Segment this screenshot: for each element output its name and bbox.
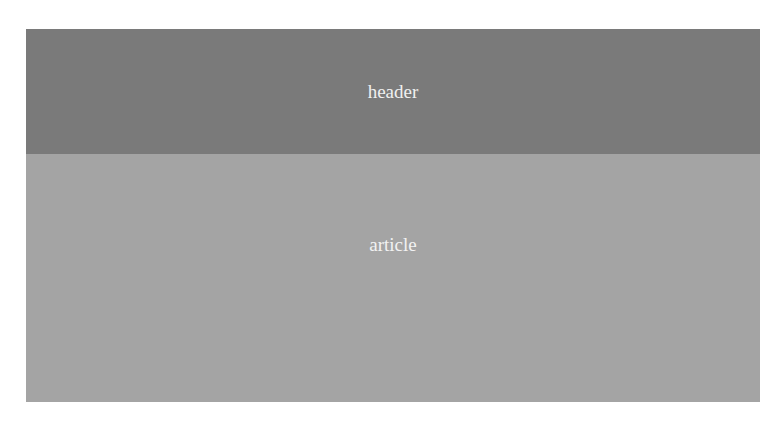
page-layout: header article xyxy=(26,29,760,402)
article-label: article xyxy=(369,234,416,402)
header-region: header xyxy=(26,29,760,154)
header-label: header xyxy=(368,81,419,103)
article-region: article xyxy=(26,154,760,402)
